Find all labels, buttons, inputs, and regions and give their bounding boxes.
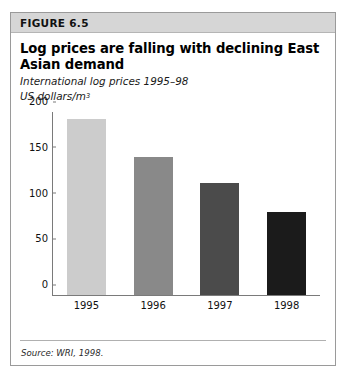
y-axis-tick-label: 0 <box>42 279 53 290</box>
y-axis-tick-label: 150 <box>29 141 53 152</box>
bar-chart: 1995199619971998 050100150200 <box>20 106 326 318</box>
y-axis-tick-mark <box>53 238 56 239</box>
y-axis-tick-mark <box>53 193 56 194</box>
bar <box>200 183 239 296</box>
y-axis-tick-mark <box>53 101 56 102</box>
chart-units-label: US dollars/m3 <box>20 90 326 102</box>
chart-units-exponent: 3 <box>86 92 90 100</box>
figure-label-band: FIGURE 6.5 <box>11 13 335 33</box>
bar-group: 1998 <box>253 112 320 295</box>
chart-title: Log prices are falling with declining Ea… <box>20 41 326 72</box>
x-axis-tick-label: 1995 <box>74 300 99 311</box>
x-axis-tick-label: 1997 <box>207 300 232 311</box>
bar-group: 1996 <box>120 112 187 295</box>
bar-group: 1997 <box>187 112 254 295</box>
y-axis-tick-mark <box>53 147 56 148</box>
source-note: Source: WRI, 1998. <box>21 348 103 358</box>
figure-number-label: FIGURE 6.5 <box>20 17 89 29</box>
y-axis-tick-label: 100 <box>29 187 53 198</box>
y-axis-tick-label: 200 <box>29 96 53 107</box>
bar <box>267 212 306 295</box>
figure-body: Log prices are falling with declining Ea… <box>11 33 335 318</box>
x-axis-tick-label: 1998 <box>274 300 299 311</box>
figure-card: FIGURE 6.5 Log prices are falling with d… <box>10 12 336 366</box>
bar-group: 1995 <box>53 112 120 295</box>
x-axis-tick-label: 1996 <box>140 300 165 311</box>
plot-area: 1995199619971998 050100150200 <box>52 112 320 296</box>
y-axis-tick-label: 50 <box>35 233 53 244</box>
y-axis-tick-mark <box>53 284 56 285</box>
bar-series: 1995199619971998 <box>53 112 320 295</box>
chart-subtitle: International log prices 1995–98 <box>20 75 326 87</box>
source-divider <box>20 340 326 341</box>
bar <box>67 119 106 295</box>
bar <box>134 157 173 295</box>
